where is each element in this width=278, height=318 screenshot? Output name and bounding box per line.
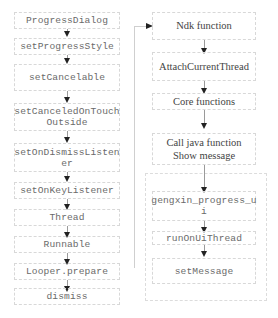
node-set-progress-style: setProgressStyle bbox=[14, 38, 120, 55]
node-progress-dialog: ProgressDialog bbox=[14, 12, 120, 29]
node-attach-current-thread: AttachCurrentThread bbox=[152, 52, 256, 81]
node-call-java-function: Call java function Show message bbox=[152, 133, 256, 165]
node-set-cancelable: setCancelable bbox=[14, 64, 120, 91]
connector-line-vertical bbox=[134, 26, 135, 268]
node-run-on-ui-thread: runOnUiThread bbox=[152, 231, 256, 245]
node-set-message: setMessage bbox=[152, 258, 256, 284]
node-looper-prepare: Looper.prepare bbox=[14, 263, 120, 280]
node-ndk-function: Ndk function bbox=[152, 12, 256, 40]
node-dismiss: dismiss bbox=[14, 288, 120, 305]
node-set-canceled-on-touch-outside: setCanceledOnTouch Outside bbox=[14, 103, 120, 131]
node-thread: Thread bbox=[14, 209, 120, 226]
node-gengxin-progress-ui: gengxin_progress_u i bbox=[152, 191, 256, 221]
node-runnable: Runnable bbox=[14, 236, 120, 253]
node-set-on-dismiss-listener: setOnDismissListen er bbox=[14, 143, 120, 172]
node-core-functions: Core functions bbox=[152, 93, 256, 110]
node-set-on-key-listener: setOnKeyListener bbox=[14, 182, 120, 199]
